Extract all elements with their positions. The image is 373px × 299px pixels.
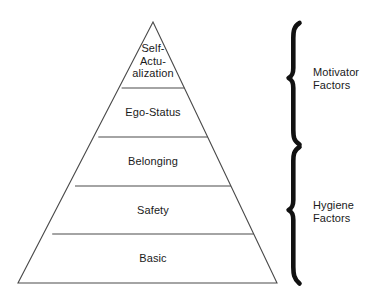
pyramid-diagram-svg [0,0,373,299]
bracket-label-hygiene-factors: Hygiene Factors [313,199,354,225]
brace-motivator [289,23,300,145]
bracket-braces [289,23,300,284]
pyramid-outline [18,22,277,283]
pyramid-outline-shape [18,22,277,283]
diagram-canvas: Self- Actu- alization Ego-Status Belongi… [0,0,373,299]
brace-hygiene [289,147,300,284]
bracket-label-motivator-factors: Motivator Factors [313,66,359,92]
